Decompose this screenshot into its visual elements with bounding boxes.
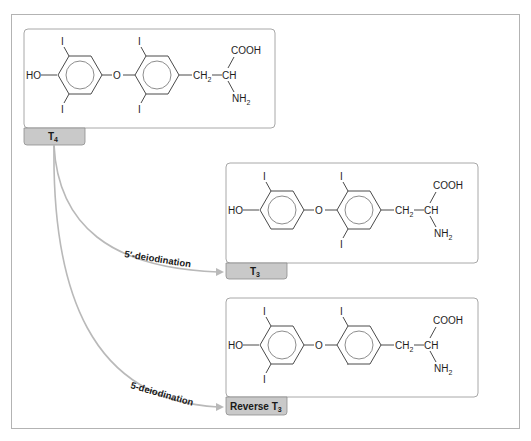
alpha-carbon-label: CH <box>424 205 438 216</box>
iodine-label: I <box>340 239 343 250</box>
iodine-label: I <box>138 104 141 115</box>
iodine-label: I <box>61 104 64 115</box>
carboxyl-label: COOH <box>231 45 261 56</box>
ether-oxygen-label: O <box>315 205 323 216</box>
label-reverse-t3: Reverse T3 <box>230 401 282 413</box>
arrow-line <box>54 145 218 407</box>
deiodination-diagram: HO O I I I I CH2 CH COOH NH2 T4 HO O I I… <box>0 0 531 441</box>
carboxyl-label: COOH <box>433 315 463 326</box>
ether-oxygen-label: O <box>113 70 121 81</box>
iodine-label: I <box>340 306 343 317</box>
molecule-t3: HO O I I I CH2 CH COOH NH2 T3 <box>226 163 478 279</box>
hydroxyl-label: HO <box>228 340 243 351</box>
arrow-5prime-deiodination: 5′-deiodination <box>54 145 224 276</box>
iodine-label: I <box>61 36 64 47</box>
iodine-label: I <box>340 171 343 182</box>
molecule-reverse-t3: HO O I I I CH2 CH COOH NH2 Reverse T3 <box>226 298 478 415</box>
alpha-carbon-label: CH <box>424 340 438 351</box>
iodine-label: I <box>263 306 266 317</box>
molecule-t4: HO O I I I I CH2 CH COOH NH2 T4 <box>24 29 275 145</box>
iodine-label: I <box>263 171 266 182</box>
ether-oxygen-label: O <box>315 340 323 351</box>
iodine-label: I <box>138 36 141 47</box>
arrow-5-deiodination: 5-deiodination <box>54 145 224 411</box>
hydroxyl-label: HO <box>26 70 41 81</box>
arrowhead-icon <box>216 268 224 276</box>
arrow-label-5: 5-deiodination <box>129 379 195 408</box>
arrow-label-5prime: 5′-deiodination <box>124 248 192 269</box>
iodine-label: I <box>263 374 266 385</box>
arrowhead-icon <box>216 403 224 411</box>
hydroxyl-label: HO <box>228 205 243 216</box>
carboxyl-label: COOH <box>433 180 463 191</box>
alpha-carbon-label: CH <box>222 70 236 81</box>
